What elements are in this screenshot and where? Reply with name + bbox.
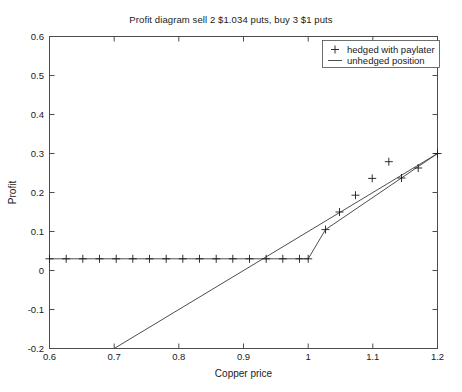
x-tick-label: 0.6 — [43, 351, 56, 362]
x-tick-marks — [50, 37, 438, 349]
y-tick-label: -0.2 — [28, 343, 44, 354]
y-tick-label: 0.1 — [31, 226, 44, 237]
x-tick-label: 1.1 — [366, 351, 379, 362]
plot-area: 0.6 0.7 0.8 0.9 1 1.1 1.2 -0.2 -0.1 0 0.… — [0, 0, 462, 392]
y-tick-label: 0.2 — [31, 187, 44, 198]
legend-label-hedged: hedged with paylater — [347, 44, 435, 55]
series-unhedged-position — [114, 154, 437, 349]
y-tick-label: 0.5 — [31, 70, 44, 81]
x-tick-label: 0.9 — [237, 351, 250, 362]
y-tick-label: 0 — [39, 265, 44, 276]
profit-diagram-figure: Profit diagram sell 2 $1.034 puts, buy 3… — [0, 0, 462, 392]
legend-entry-hedged[interactable]: hedged with paylater — [331, 44, 435, 55]
x-tick-label: 0.8 — [172, 351, 185, 362]
y-tick-label: -0.1 — [28, 304, 44, 315]
series-markers — [46, 150, 442, 263]
y-tick-label: 0.6 — [31, 31, 44, 42]
x-tick-labels: 0.6 0.7 0.8 0.9 1 1.1 1.2 — [43, 351, 444, 362]
y-tick-labels: -0.2 -0.1 0 0.1 0.2 0.3 0.4 0.5 0.6 — [28, 31, 44, 354]
legend[interactable]: hedged with paylater unhedged position — [323, 41, 440, 68]
y-tick-label: 0.3 — [31, 148, 44, 159]
axes-frame — [50, 37, 438, 349]
y-tick-marks — [50, 37, 438, 349]
x-axis-title: Copper price — [215, 368, 273, 379]
x-tick-label: 0.7 — [108, 351, 121, 362]
y-tick-label: 0.4 — [31, 109, 44, 120]
y-axis-title: Profit — [7, 181, 18, 205]
legend-label-unhedged: unhedged position — [347, 55, 425, 66]
x-tick-label: 1.2 — [431, 351, 444, 362]
series-hedged-with-paylater — [46, 150, 442, 263]
x-tick-label: 1 — [306, 351, 311, 362]
